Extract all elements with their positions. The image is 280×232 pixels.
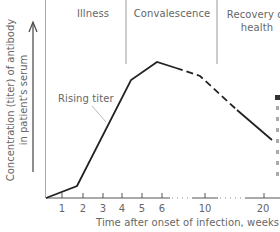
phase-illness: Illness [62,8,124,19]
tick-label: 5 [139,203,145,214]
tick-label: 20 [257,203,270,214]
phase-recovery: Recovery of health [222,8,280,34]
x-axis-label: Time after onset of infection, weeks [96,217,279,228]
annotation-leader [92,106,106,122]
y-axis-label-line1: Concentration (titer) of antibody [4,10,17,190]
chart-canvas [0,0,280,232]
phase-convalescence: Convalescence [128,8,216,19]
phase-recovery-line2: health [222,21,280,34]
titer-curve-dashed [176,68,237,110]
tick-label: 1 [59,203,65,214]
titer-curve [46,62,176,198]
tick-label: 10 [199,203,212,214]
y-axis-label-line2: in patient's serum [17,10,30,190]
x-ticks [62,193,264,198]
y-axis-label: Concentration (titer) of antibody in pat… [4,10,30,190]
rising-titer-annotation: Rising titer [58,93,114,104]
tick-label: 4 [119,203,125,214]
tick-label: 2 [80,203,86,214]
tick-label: 3 [100,203,106,214]
titer-curve-tail [237,110,272,140]
tick-label: 6 [159,203,165,214]
phase-recovery-line1: Recovery of [222,8,280,21]
